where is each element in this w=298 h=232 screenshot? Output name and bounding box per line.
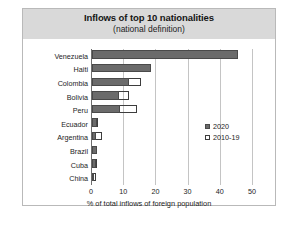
category-label: Venezuela	[54, 51, 88, 60]
chart-title-banner: Inflows of top 10 nationalities (nationa…	[23, 9, 275, 39]
category-label: Brazil	[70, 146, 88, 155]
category-label: Colombia	[58, 78, 88, 87]
bar-2020	[92, 173, 94, 181]
bar-2020	[92, 146, 97, 154]
category-label: Ecuador	[61, 119, 88, 128]
category-label: Peru	[73, 106, 88, 115]
x-tick-label: 0	[89, 187, 93, 196]
chart-figure: Inflows of top 10 nationalities (nationa…	[0, 0, 298, 232]
legend-item-2020: 2020	[205, 122, 239, 131]
x-axis-label: % of total inflows of foreign population	[22, 199, 276, 208]
legend-item-2010-19: 2010-19	[205, 133, 239, 142]
category-label: China	[69, 174, 88, 183]
bar-row: Venezuela	[92, 49, 253, 63]
x-tick-label: 50	[248, 187, 256, 196]
bar-2020	[92, 50, 238, 58]
legend-swatch-2010-19	[205, 135, 210, 140]
chart-title: Inflows of top 10 nationalities	[23, 12, 275, 24]
legend-label-2010-19: 2010-19	[213, 133, 239, 142]
chart-subtitle: (national definition)	[23, 24, 275, 35]
bar-row: Brazil	[92, 144, 253, 158]
bar-2020	[92, 91, 119, 99]
x-tick-label: 30	[184, 187, 192, 196]
bar-row: China	[92, 171, 253, 185]
legend-swatch-2020	[205, 124, 210, 129]
category-label: Haiti	[74, 65, 88, 74]
legend-label-2020: 2020	[213, 122, 229, 131]
bar-rows: VenezuelaHaitiColombiaBoliviaPeruEcuador…	[91, 49, 252, 185]
plot-area: VenezuelaHaitiColombiaBoliviaPeruEcuador…	[91, 49, 252, 185]
bar-2020	[92, 105, 120, 113]
bar-row: Peru	[92, 103, 253, 117]
bar-row: Cuba	[92, 158, 253, 172]
x-tick-label: 20	[151, 187, 159, 196]
chart-legend: 2020 2010-19	[205, 122, 239, 144]
bar-2020	[92, 78, 129, 86]
bar-row: Haiti	[92, 63, 253, 77]
x-tick-label: 10	[119, 187, 127, 196]
bar-2020	[92, 118, 97, 126]
bar-2020	[92, 64, 151, 72]
category-label: Bolivia	[67, 92, 88, 101]
bar-2020	[92, 132, 96, 140]
bar-row: Colombia	[92, 76, 253, 90]
category-label: Cuba	[71, 160, 88, 169]
category-label: Argentina	[57, 133, 88, 142]
x-tick-label: 40	[216, 187, 224, 196]
bar-2020	[92, 159, 96, 167]
bar-row: Bolivia	[92, 90, 253, 104]
x-axis-ticks: 01020304050	[91, 187, 252, 199]
